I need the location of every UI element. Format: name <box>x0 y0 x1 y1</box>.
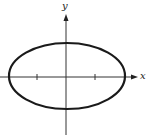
ellipse-diagram <box>0 0 150 135</box>
ellipse-curve <box>9 43 125 109</box>
x-axis-label: x <box>140 71 146 81</box>
y-axis-label: y <box>62 1 68 11</box>
y-axis-arrow-icon <box>64 14 69 21</box>
x-axis-arrow-icon <box>131 75 138 80</box>
